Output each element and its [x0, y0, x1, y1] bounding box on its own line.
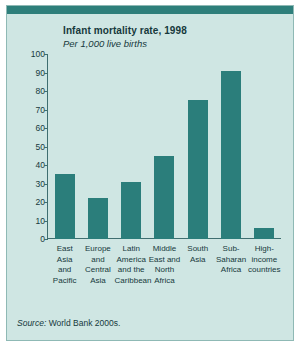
x-axis-category-label: LatinAmericaand theCaribbean	[115, 244, 148, 286]
x-axis-category-label-line: Sub-	[214, 244, 247, 255]
bar	[188, 100, 208, 239]
x-axis-category-label-line: North	[148, 265, 181, 276]
x-axis-category-label-line: Africa	[148, 276, 181, 287]
x-axis-category-label-line: Pacific	[48, 276, 81, 287]
bar-series	[48, 54, 281, 239]
bar	[121, 182, 141, 239]
x-axis-category-label: Sub-SaharanAfrica	[214, 244, 247, 276]
x-axis-category-label-line: Latin	[115, 244, 148, 255]
x-axis-category-label-line: and	[81, 255, 114, 266]
y-axis-tick-label: 70	[7, 106, 45, 114]
x-axis-category-label: MiddleEast andNorthAfrica	[148, 244, 181, 286]
x-axis-category-label-line: Europe	[81, 244, 114, 255]
bar	[154, 156, 174, 239]
x-axis-category-label-line: and the	[115, 265, 148, 276]
x-axis-category-label-line: income	[248, 255, 281, 266]
y-axis-tick-label: 20	[7, 198, 45, 206]
y-axis-tick-label: 60	[7, 124, 45, 132]
x-axis-category-label-line: South	[181, 244, 214, 255]
source-label: Source:	[17, 318, 46, 328]
x-axis-category-label-line: and	[48, 265, 81, 276]
bar-slot	[214, 54, 247, 239]
x-axis-category-label: SouthAsia	[181, 244, 214, 265]
y-axis-tick-label: 40	[7, 161, 45, 169]
source-note: Source: World Bank 2000s.	[17, 318, 120, 329]
bar	[55, 174, 75, 239]
x-axis-category-label: High-incomecountries	[248, 244, 281, 276]
figure-container: Infant mortality rate, 1998 Per 1,000 li…	[0, 0, 300, 346]
bar	[88, 198, 108, 239]
x-axis-category-label-line: America	[115, 255, 148, 266]
x-axis-category-label-line: High-	[248, 244, 281, 255]
plot-area: 1009080706050403020100 EastAsiaandPacifi…	[7, 6, 294, 341]
x-axis-category-label-line: Middle	[148, 244, 181, 255]
x-axis-category-label-line: Central	[81, 265, 114, 276]
x-axis-category-label-line: Asia	[48, 255, 81, 266]
bar-slot	[148, 54, 181, 239]
chart-panel: Infant mortality rate, 1998 Per 1,000 li…	[6, 5, 294, 341]
bar-slot	[81, 54, 114, 239]
x-axis-category-label-line: countries	[248, 265, 281, 276]
y-axis-tick-label: 30	[7, 180, 45, 188]
bar	[221, 71, 241, 239]
y-axis-tick-label: 10	[7, 217, 45, 225]
x-axis-category-label-line: East	[48, 244, 81, 255]
bar-slot	[181, 54, 214, 239]
bar	[254, 228, 274, 239]
x-axis-category-label-line: East and	[148, 255, 181, 266]
y-axis-tick-label: 100	[7, 50, 45, 58]
bar-slot	[248, 54, 281, 239]
y-axis-tick-label: 0	[7, 235, 45, 243]
x-axis-category-label: EastAsiaandPacific	[48, 244, 81, 286]
x-axis-category-label-line: Asia	[81, 276, 114, 287]
x-axis-category-label-line: Asia	[181, 255, 214, 266]
bar-slot	[48, 54, 81, 239]
x-axis-category-label-line: Africa	[214, 265, 247, 276]
source-text: World Bank 2000s.	[49, 318, 121, 328]
x-axis-labels: EastAsiaandPacificEuropeandCentralAsiaLa…	[48, 244, 281, 306]
x-axis-category-label-line: Saharan	[214, 255, 247, 266]
bar-slot	[115, 54, 148, 239]
y-axis-tick-label: 50	[7, 143, 45, 151]
y-axis-tick-mark	[44, 239, 48, 240]
y-axis-tick-label: 80	[7, 87, 45, 95]
x-axis-category-label-line: Caribbean	[115, 276, 148, 287]
y-axis-tick-label: 90	[7, 69, 45, 77]
x-axis-category-label: EuropeandCentralAsia	[81, 244, 114, 286]
